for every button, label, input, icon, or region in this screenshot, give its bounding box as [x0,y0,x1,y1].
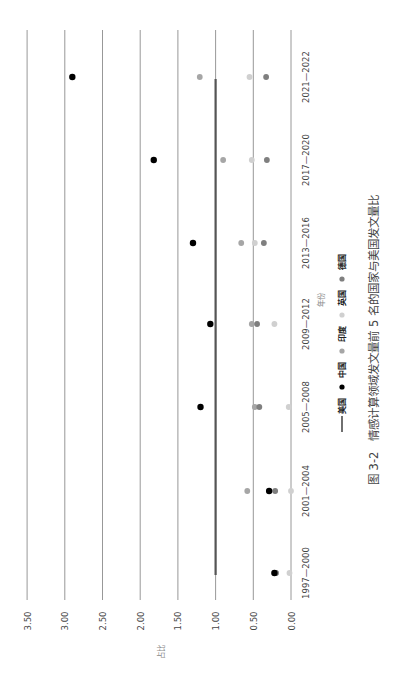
value-axis-ticks: 0.000.501.001.502.002.503.003.50 [23,612,297,631]
category-label: 2005—2008 [301,381,311,433]
data-point [69,74,75,80]
value-tick-label: 3.50 [23,612,33,631]
category-label: 1997—2000 [301,547,311,599]
x-axis-title: 年份 [316,292,326,307]
data-point [238,240,244,246]
figure-caption: 图 3-2 情感计算领域发文量前 5 名的国家与美国发文量比 [367,195,381,485]
data-point [220,157,226,163]
value-tick-label: 0.00 [287,612,297,631]
data-point [249,157,255,163]
legend-label: 中国 [337,362,347,378]
value-tick-label: 3.00 [60,612,70,631]
data-point [197,74,203,80]
y-axis-title: 占比 [156,644,166,659]
legend-label: 美国 [337,398,347,414]
value-tick-label: 1.50 [173,612,183,631]
figure-caption-text: 图 3-2 情感计算领域发文量前 5 名的国家与美国发文量比 [367,195,381,485]
legend-swatch-dot [339,348,344,353]
data-point [261,240,267,246]
legend: 美国中国印度英国德国 [337,254,347,432]
data-point [190,240,196,246]
category-label: 2013—2016 [301,217,311,269]
category-label: 2017—2020 [301,134,311,186]
data-point [272,488,278,494]
data-point [271,570,277,576]
data-point [266,488,272,494]
category-label: 2009—2012 [301,298,311,350]
value-tick-label: 0.50 [249,612,259,631]
data-point [254,321,260,327]
data-point [288,488,294,494]
category-label: 2021—2022 [301,51,311,103]
data-point [272,321,278,327]
chart: 0.000.501.001.502.002.503.003.50 1997—20… [0,0,393,686]
value-tick-label: 2.50 [98,612,108,631]
value-tick-label: 2.00 [136,612,146,631]
data-point [256,404,262,410]
data-point [264,157,270,163]
data-point [287,570,293,576]
value-tick-label: 1.00 [211,612,221,631]
data-point [197,404,203,410]
data-point [286,404,292,410]
data-point [151,157,157,163]
category-label: 2001—2004 [301,465,311,517]
data-point [244,488,250,494]
data-point [249,321,255,327]
legend-label: 印度 [337,325,347,342]
legend-label: 德国 [337,254,347,270]
legend-swatch-dot [339,384,344,389]
data-point [247,74,253,80]
legend-swatch-dot [339,312,344,317]
gridlines [27,30,291,600]
legend-swatch-dot [339,276,344,281]
legend-label: 英国 [337,290,347,307]
data-point [252,240,258,246]
category-axis-labels: 1997—20002001—20042005—20082009—20122013… [301,51,311,599]
data-point [207,321,213,327]
data-point [263,74,269,80]
